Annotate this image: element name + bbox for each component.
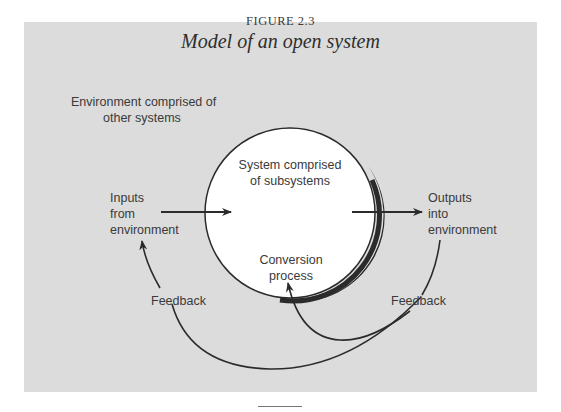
feedback-label-right: Feedback [391, 293, 446, 309]
conversion-label-line2: process [246, 268, 336, 284]
system-label-line1: System comprised [226, 157, 354, 173]
feedback-arrow-left [142, 241, 160, 288]
inputs-label-line1: Inputs [110, 190, 179, 206]
system-label: System comprised of subsystems [226, 157, 354, 189]
outputs-label-line2: into [428, 206, 497, 222]
conversion-label: Conversion process [246, 252, 336, 284]
conversion-label-line1: Conversion [246, 252, 336, 268]
environment-label-line1: Environment comprised of [71, 94, 291, 110]
system-label-line2: of subsystems [226, 173, 354, 189]
inputs-label-line3: environment [110, 222, 179, 238]
outputs-label: Outputs into environment [428, 190, 497, 238]
outputs-label-line1: Outputs [428, 190, 497, 206]
feedback-label-left: Feedback [151, 293, 206, 309]
environment-label-line2: other systems [71, 110, 291, 126]
feedback-arrow-right [422, 240, 440, 295]
outputs-label-line3: environment [428, 222, 497, 238]
inputs-label: Inputs from environment [110, 190, 179, 238]
environment-label: Environment comprised of other systems [71, 94, 291, 126]
footer-rule [258, 406, 302, 407]
inputs-label-line2: from [110, 206, 179, 222]
